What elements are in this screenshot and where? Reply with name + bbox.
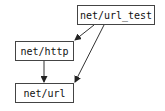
edge-url-test-to-url — [75, 25, 104, 82]
node-net-http[interactable]: net/http — [15, 41, 74, 61]
edge-url-test-to-http — [75, 25, 94, 40]
node-net-url-test[interactable]: net/url_test — [77, 5, 155, 25]
node-label: net/url — [23, 88, 65, 99]
node-label: net/url_test — [80, 10, 152, 21]
node-net-url[interactable]: net/url — [15, 83, 74, 103]
node-label: net/http — [20, 46, 68, 57]
